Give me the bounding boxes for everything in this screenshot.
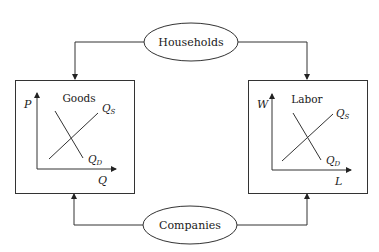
goods-title: Goods [62, 92, 95, 104]
labor-title: Labor [291, 93, 323, 105]
circular-flow-diagram: Households Companies Goods P Q QS QD Lab… [0, 0, 379, 252]
edge-companies-goods [74, 194, 143, 225]
labor-y-axis-label: W [257, 98, 270, 111]
households-label: Households [158, 36, 224, 49]
labor-market-panel: Labor W L QS QD [249, 81, 368, 194]
goods-supply-label: QS [102, 102, 116, 116]
labor-supply-label: QS [336, 107, 350, 121]
companies-label: Companies [159, 219, 221, 232]
households-node: Households [144, 23, 238, 61]
goods-demand-curve [55, 111, 83, 158]
labor-x-axis-label: L [334, 175, 342, 188]
goods-market-panel: Goods P Q QS QD [16, 81, 135, 194]
labor-demand-curve [293, 113, 321, 160]
goods-x-axis-label: Q [98, 174, 107, 187]
edge-households-labor [238, 42, 307, 79]
goods-y-axis-label: P [23, 98, 32, 111]
edge-households-goods [75, 42, 144, 79]
goods-demand-label: QD [88, 153, 103, 167]
labor-demand-label: QD [326, 154, 341, 168]
companies-node: Companies [143, 206, 237, 244]
edge-companies-labor [237, 194, 307, 225]
